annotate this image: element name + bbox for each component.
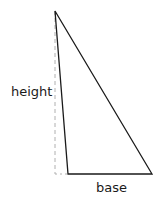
base-label: base xyxy=(96,181,127,194)
triangle-diagram xyxy=(0,0,163,205)
triangle-shape xyxy=(55,11,152,174)
height-label: height xyxy=(11,85,52,98)
